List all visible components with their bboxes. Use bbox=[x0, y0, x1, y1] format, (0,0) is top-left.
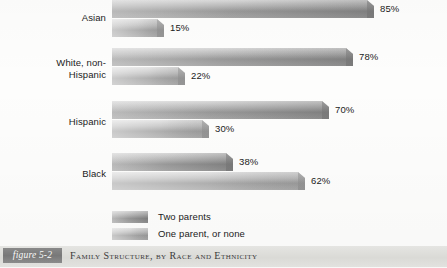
chart-plot-area: Asian 85% 15% bbox=[0, 0, 447, 205]
category-label-line1: Black bbox=[82, 168, 106, 179]
bar-shape-one-parent bbox=[112, 19, 164, 37]
bar-value-two-parents-black: 38% bbox=[239, 156, 258, 167]
category-label-line1: White, non- bbox=[56, 57, 106, 68]
bar-value-one-parent-white-non-hispanic: 22% bbox=[191, 70, 210, 81]
bar-value-two-parents-white-non-hispanic: 78% bbox=[359, 51, 378, 62]
chart-legend: Two parents One parent, or none bbox=[112, 210, 362, 244]
bar-value-two-parents-asian: 85% bbox=[380, 3, 399, 14]
category-label-line2: Hispanic bbox=[69, 69, 106, 80]
figure-caption-bar: figure 5-2 Family Structure, by Race and… bbox=[0, 246, 447, 267]
legend-swatch-two-parents-icon bbox=[112, 211, 148, 223]
bar-shape-two-parents bbox=[112, 101, 329, 119]
category-label-line1: Asian bbox=[82, 12, 106, 23]
bar-value-one-parent-hispanic: 30% bbox=[215, 123, 234, 134]
bar-shape-two-parents bbox=[112, 48, 353, 66]
bar-group-asian: Asian 85% 15% bbox=[0, 0, 447, 46]
category-label-hispanic: Hispanic bbox=[6, 116, 106, 128]
bar-shape-one-parent bbox=[112, 172, 305, 190]
figure-container: Asian 85% 15% bbox=[0, 0, 447, 268]
legend-item-one-parent-or-none: One parent, or none bbox=[112, 227, 362, 242]
category-label-asian: Asian bbox=[6, 12, 106, 24]
figure-number-tag: figure 5-2 bbox=[3, 248, 62, 263]
figure-caption-title: Family Structure, by Race and Ethnicity bbox=[70, 249, 258, 263]
legend-swatch-one-parent-icon bbox=[112, 228, 148, 240]
legend-item-two-parents: Two parents bbox=[112, 210, 362, 225]
bar-group-black: Black 38% 62% bbox=[0, 153, 447, 203]
bar-value-one-parent-asian: 15% bbox=[170, 22, 189, 33]
bar-group-white-non-hispanic: White, non- Hispanic 78% 22% bbox=[0, 48, 447, 98]
bar-shape-one-parent bbox=[112, 120, 209, 138]
bar-shape-two-parents bbox=[112, 0, 374, 18]
bar-value-one-parent-black: 62% bbox=[311, 175, 330, 186]
legend-label-one-parent-or-none: One parent, or none bbox=[158, 228, 245, 240]
bar-group-hispanic: Hispanic 70% 30% bbox=[0, 101, 447, 151]
category-label-line1: Hispanic bbox=[69, 116, 106, 127]
bar-shape-one-parent bbox=[112, 67, 185, 85]
bar-shape-two-parents bbox=[112, 153, 233, 171]
legend-label-two-parents: Two parents bbox=[158, 211, 211, 223]
category-label-white-non-hispanic: White, non- Hispanic bbox=[6, 57, 106, 80]
bar-value-two-parents-hispanic: 70% bbox=[335, 104, 354, 115]
category-label-black: Black bbox=[6, 168, 106, 180]
